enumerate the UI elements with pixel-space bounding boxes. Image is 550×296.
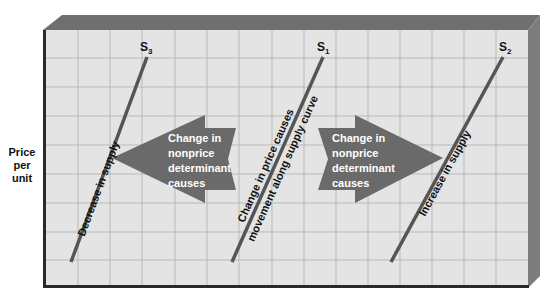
svg-text:causes: causes	[332, 177, 369, 189]
svg-text:determinant: determinant	[168, 162, 231, 174]
y-axis-label: Price per unit	[2, 146, 42, 185]
y-axis-label-line: per	[2, 159, 42, 172]
frame-top-bevel	[43, 15, 540, 30]
frame-bottom-edge	[43, 285, 529, 288]
y-axis-label-line: Price	[2, 146, 42, 159]
frame-right-side	[528, 15, 540, 288]
svg-text:Change in: Change in	[168, 132, 221, 144]
svg-text:determinant: determinant	[332, 162, 395, 174]
svg-text:nonprice: nonprice	[168, 147, 214, 159]
y-axis-label-line: unit	[2, 172, 42, 185]
frame-left-edge	[43, 30, 46, 288]
svg-text:nonprice: nonprice	[332, 147, 378, 159]
svg-text:Change in: Change in	[332, 132, 385, 144]
svg-text:causes: causes	[168, 177, 205, 189]
supply-shift-diagram: S3 S1 S2 Decrease in supply Change in pr…	[0, 0, 550, 296]
